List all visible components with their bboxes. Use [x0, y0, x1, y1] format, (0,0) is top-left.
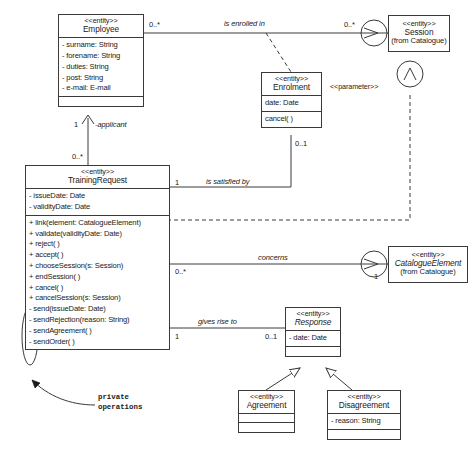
mult-catalogue-element-concerns: 1	[374, 272, 378, 281]
assoc-applicant-arrowhead	[82, 115, 94, 124]
class-enrolment-name: Enrolment	[264, 83, 319, 92]
attribute-row: - e-mail: E-mail	[62, 83, 140, 94]
mult-response-gives-rise: 0..1	[265, 332, 277, 341]
class-training-request-operations: + link(element: CatalogueElement) + vali…	[26, 216, 169, 349]
class-session-package: (from Catalogue)	[391, 37, 447, 46]
mult-session-enrolled: 0..*	[344, 20, 355, 29]
class-catalogue-element-header: <<entity>> CatalogueElement (from Catalo…	[389, 247, 467, 282]
class-employee[interactable]: <<entity>> Employee - surname: String - …	[58, 14, 144, 107]
operation-row: + validate(validityDate: Date)	[29, 229, 166, 240]
class-enrolment-header: <<entity>> Enrolment	[262, 73, 321, 96]
generalization-agreement	[266, 368, 300, 390]
operation-row: - sendAgreement( )	[29, 326, 166, 337]
operation-row: cancel( )	[265, 114, 318, 125]
operation-row: - send(issueDate: Date)	[29, 304, 166, 315]
class-session[interactable]: <<entity>> Session (from Catalogue)	[388, 15, 450, 52]
class-catalogue-element-package: (from Catalogue)	[391, 268, 465, 277]
class-disagreement-operations	[328, 430, 400, 439]
class-training-request-attributes: - issueDate: Date - validityDate: Date	[26, 189, 169, 216]
stereotype-parameter: <<parameter>>	[330, 82, 378, 91]
generalization-disagreement	[326, 368, 352, 390]
operation-row: + cancelSession(s: Session)	[29, 293, 166, 304]
navigability-arrow-catalogue	[364, 259, 378, 269]
class-session-header: <<entity>> Session (from Catalogue)	[389, 16, 449, 51]
class-employee-header: <<entity>> Employee	[59, 15, 143, 38]
class-enrolment[interactable]: <<entity>> Enrolment date: Date cancel( …	[261, 72, 322, 128]
class-training-request-header: <<entity>> TrainingRequest	[26, 166, 169, 189]
class-response-name: Response	[288, 318, 338, 327]
navigability-circle-session	[361, 20, 387, 46]
attribute-row: - issueDate: Date	[29, 191, 166, 202]
operation-row: + reject( )	[29, 239, 166, 250]
operation-row: + chooseSession(s: Session)	[29, 261, 166, 272]
class-agreement-attributes	[239, 414, 294, 423]
attribute-row: - reason: String	[331, 416, 397, 427]
class-catalogue-element[interactable]: <<entity>> CatalogueElement (from Catalo…	[388, 246, 468, 283]
operation-row: + link(element: CatalogueElement)	[29, 218, 166, 229]
attribute-row: date: Date	[265, 98, 318, 109]
class-agreement[interactable]: <<entity>> Agreement	[238, 390, 295, 433]
mult-employee-applicant: 1	[74, 120, 78, 129]
class-disagreement-name: Disagreement	[330, 401, 398, 410]
mult-training-request-concerns: 0..*	[175, 267, 186, 276]
class-disagreement-attributes: - reason: String	[328, 414, 400, 430]
class-disagreement-header: <<entity>> Disagreement	[328, 391, 400, 414]
attribute-row: - date: Date	[289, 333, 337, 344]
class-response-header: <<entity>> Response	[286, 308, 340, 331]
mult-enrolment-satisfied: 0..1	[295, 139, 307, 148]
operation-row: - sendOrder( )	[29, 337, 166, 348]
operation-row: + accept( )	[29, 250, 166, 261]
operation-row: + cancel( )	[29, 283, 166, 294]
diagram-canvas: <<entity>> Employee - surname: String - …	[0, 0, 475, 469]
class-training-request[interactable]: <<entity>> TrainingRequest - issueDate: …	[25, 165, 170, 350]
class-agreement-operations	[239, 423, 294, 432]
class-enrolment-attributes: date: Date	[262, 96, 321, 112]
mult-training-request-satisfied: 1	[175, 178, 179, 187]
attribute-row: - validityDate: Date	[29, 202, 166, 213]
assoc-label-concerns: concerns	[258, 253, 288, 262]
role-applicant: -applicant	[95, 120, 127, 129]
class-agreement-header: <<entity>> Agreement	[239, 391, 294, 414]
class-employee-name: Employee	[61, 25, 141, 34]
class-agreement-name: Agreement	[241, 401, 292, 410]
parameter-arrowhead	[404, 68, 416, 80]
class-employee-attributes: - surname: String - forename: String - d…	[59, 38, 143, 97]
assoc-label-is-satisfied-by: is satisfied by	[206, 177, 250, 186]
class-enrolment-operations: cancel( )	[262, 112, 321, 127]
mult-training-request-applicant: 0..*	[72, 152, 83, 161]
class-response-operations	[286, 347, 340, 356]
class-training-request-name: TrainingRequest	[28, 176, 167, 185]
assoc-label-is-enrolled-in: is enrolled in	[224, 19, 265, 28]
attribute-row: - forename: String	[62, 51, 140, 62]
class-disagreement[interactable]: <<entity>> Disagreement - reason: String	[327, 390, 401, 440]
parameter-circle	[397, 61, 423, 87]
private-operations-note: private operations	[98, 393, 142, 413]
class-response-attributes: - date: Date	[286, 331, 340, 347]
assoc-class-link-enrolment	[266, 33, 291, 72]
navigability-arrow-session	[364, 28, 378, 38]
operation-row: + endSession( )	[29, 272, 166, 283]
attribute-row: - surname: String	[62, 40, 140, 51]
operation-row: - sendRejection(reason: String)	[29, 315, 166, 326]
class-employee-operations	[59, 97, 143, 106]
private-operations-line-1: private	[98, 393, 142, 403]
mult-training-request-gives-rise: 1	[175, 332, 179, 341]
class-response[interactable]: <<entity>> Response - date: Date	[285, 307, 341, 357]
private-ops-callout	[32, 380, 95, 405]
assoc-label-gives-rise-to: gives rise to	[198, 317, 237, 326]
attribute-row: - post: String	[62, 73, 140, 84]
mult-employee-enrolled: 0..*	[149, 20, 160, 29]
attribute-row: - duties: String	[62, 62, 140, 73]
private-operations-line-2: operations	[98, 403, 142, 413]
